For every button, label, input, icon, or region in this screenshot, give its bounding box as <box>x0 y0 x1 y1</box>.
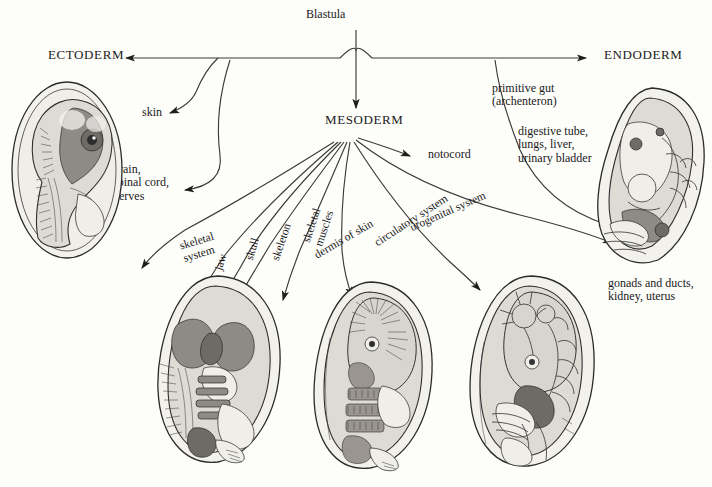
page-title: Blastula <box>306 8 345 21</box>
label-primitive-gut: primitive gut (archenteron) <box>492 82 557 109</box>
label-skin: skin <box>142 106 162 119</box>
wire-skin <box>170 58 218 113</box>
wire-neural <box>185 60 230 190</box>
label-endoderm: ENDODERM <box>604 48 682 63</box>
label-notocord: notocord <box>428 148 471 161</box>
skeletal-system-embryo <box>152 272 288 468</box>
wire-dermis <box>342 142 352 296</box>
wire-skeletal-system <box>142 142 334 268</box>
circulatory-system-embryo <box>462 272 602 470</box>
label-mesoderm: MESODERM <box>325 113 403 128</box>
label-digestive-derivatives: digestive tube, lungs, liver, urinary bl… <box>518 125 592 165</box>
label-ectoderm: ECTODERM <box>48 48 124 63</box>
label-gonads-derivatives: gonads and ducts, kidney, uterus <box>608 277 694 304</box>
digestive-urogenital-embryo <box>592 84 710 270</box>
muscular-system-embryo <box>308 278 442 474</box>
nervous-system-embryo <box>8 78 126 260</box>
diagram-canvas: Blastula ECTODERM ENDODERM MESODERM skin… <box>0 0 712 487</box>
